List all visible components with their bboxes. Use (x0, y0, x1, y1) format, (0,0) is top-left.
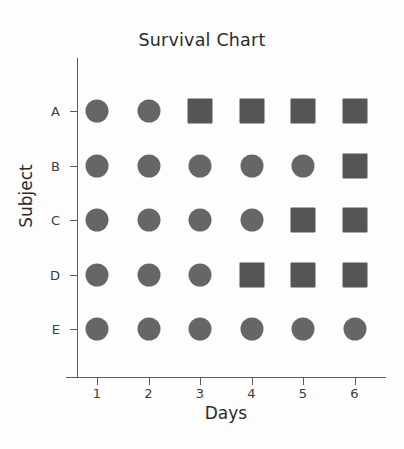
marker-d-day-5 (291, 262, 316, 287)
marker-c-day-2 (137, 209, 160, 232)
marker-b-day-1 (86, 154, 109, 177)
marker-a-day-3 (188, 99, 213, 124)
marker-a-day-2 (137, 100, 160, 123)
marker-a-day-5 (291, 99, 316, 124)
y-tick-b (70, 166, 77, 167)
x-axis-spine (66, 377, 386, 378)
marker-c-day-4 (240, 209, 263, 232)
x-tick-4 (252, 378, 253, 385)
x-tick-6 (355, 378, 356, 385)
x-tick-5 (303, 378, 304, 385)
y-tick-label-d: D (34, 267, 60, 282)
x-tick-3 (200, 378, 201, 385)
y-axis-title: Subject (16, 126, 36, 266)
marker-a-day-4 (239, 99, 264, 124)
marker-a-day-6 (342, 99, 367, 124)
marker-d-day-2 (137, 263, 160, 286)
marker-e-day-4 (240, 318, 263, 341)
y-tick-a (70, 111, 77, 112)
marker-e-day-3 (189, 318, 212, 341)
y-tick-label-e: E (34, 322, 60, 337)
x-tick-label-1: 1 (84, 386, 110, 401)
marker-c-day-5 (291, 208, 316, 233)
marker-e-day-1 (86, 318, 109, 341)
marker-d-day-6 (342, 262, 367, 287)
marker-e-day-5 (292, 318, 315, 341)
y-tick-label-b: B (34, 158, 60, 173)
marker-d-day-4 (239, 262, 264, 287)
marker-e-day-6 (343, 318, 366, 341)
marker-c-day-6 (342, 208, 367, 233)
x-tick-2 (149, 378, 150, 385)
marker-c-day-1 (86, 209, 109, 232)
marker-d-day-1 (86, 263, 109, 286)
x-tick-label-5: 5 (290, 386, 316, 401)
marker-b-day-2 (137, 154, 160, 177)
marker-e-day-2 (137, 318, 160, 341)
x-tick-label-2: 2 (136, 386, 162, 401)
chart-title: Survival Chart (0, 30, 404, 50)
marker-b-day-5 (292, 154, 315, 177)
x-tick-label-3: 3 (187, 386, 213, 401)
marker-b-day-4 (240, 154, 263, 177)
marker-b-day-6 (342, 153, 367, 178)
y-tick-label-a: A (34, 104, 60, 119)
marker-b-day-3 (189, 154, 212, 177)
y-tick-label-c: C (34, 213, 60, 228)
x-tick-label-4: 4 (239, 386, 265, 401)
y-tick-c (70, 220, 77, 221)
plot-area (78, 58, 385, 377)
marker-a-day-1 (86, 100, 109, 123)
x-axis-title: Days (66, 403, 386, 423)
marker-d-day-3 (189, 263, 212, 286)
x-tick-1 (97, 378, 98, 385)
y-tick-d (70, 275, 77, 276)
x-tick-label-6: 6 (342, 386, 368, 401)
y-tick-e (70, 329, 77, 330)
survival-chart: Survival Chart ABCDE 123456 Days Subject (0, 0, 404, 449)
marker-c-day-3 (189, 209, 212, 232)
